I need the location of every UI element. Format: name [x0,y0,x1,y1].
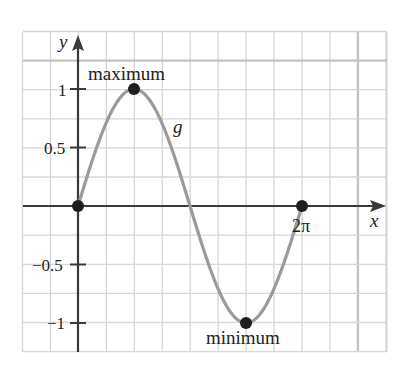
data-point [296,200,308,212]
data-point [128,83,140,95]
function-label-g: g [173,116,183,137]
y-tick-label-1: 1 [58,81,67,100]
x-tick-label-2pi: 2π [292,216,310,236]
y-tick-label-neg-0-5: −0.5 [32,256,63,275]
data-point [72,200,84,212]
x-axis-label: x [369,210,379,231]
y-tick-label-0-5: 0.5 [44,139,65,158]
maximum-label: maximum [88,63,165,84]
minimum-label: minimum [206,327,280,348]
sine-graph: y x g maximum minimum 2π 1 0.5 −0.5 −1 [0,0,403,367]
y-axis-label: y [57,31,68,52]
y-tick-label-neg-1: −1 [47,314,65,333]
axes [23,35,386,352]
